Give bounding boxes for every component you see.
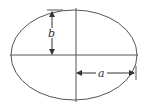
b-label: b [48, 27, 55, 40]
ellipse-figure: b a [0, 0, 145, 109]
a-label: a [98, 67, 105, 80]
ellipse-diagram: b a [0, 0, 145, 109]
